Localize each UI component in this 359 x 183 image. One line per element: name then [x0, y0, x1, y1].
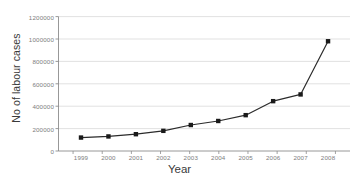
gridlines: [59, 17, 351, 129]
data-point-marker: [298, 92, 302, 96]
data-series-line: [81, 41, 328, 137]
x-axis-title: Year: [0, 163, 359, 175]
data-point-marker: [244, 113, 248, 117]
data-point-marker: [79, 135, 83, 139]
data-point-marker: [106, 134, 110, 138]
data-point-marker: [271, 99, 275, 103]
data-point-marker: [161, 129, 165, 133]
line-chart: No of labour cases 020000040000060000080…: [0, 0, 359, 183]
data-point-markers: [79, 39, 330, 140]
data-point-marker: [216, 119, 220, 123]
data-point-marker: [134, 132, 138, 136]
plot-area: [0, 0, 359, 183]
data-point-marker: [189, 123, 193, 127]
data-point-marker: [326, 39, 330, 43]
